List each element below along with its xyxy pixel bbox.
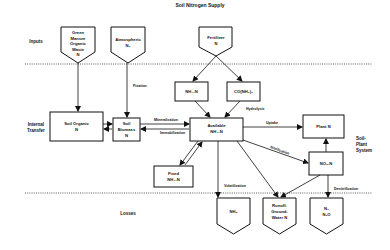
urea-text: CO(NH₂)₂: [234, 89, 253, 94]
losses-label: Losses: [120, 211, 136, 216]
soil-plant-label-2: Plant: [356, 142, 368, 147]
fertilizer-text-2: N: [214, 41, 217, 46]
no3-text: NO₃-N: [320, 161, 333, 166]
nh3-text: NH₃: [230, 209, 238, 214]
available-text-2: NH₄-N: [210, 129, 222, 134]
fixed-text-1: Fixed: [168, 171, 179, 176]
fertilizer-text-1: Fertilizer: [207, 35, 225, 40]
mineralization-label: Mineralization: [154, 118, 178, 122]
inputs-label: Inputs: [29, 39, 43, 44]
fixation-label: Fixation: [133, 84, 147, 88]
denitrification-label: Denitrification: [334, 187, 358, 191]
green-manure-text-4: Waste: [72, 47, 85, 52]
edge-fert-to-urea: [216, 56, 242, 81]
nitrogen-cycle-diagram: Soil Nitrogen Supply Inputs Internal Tra…: [0, 0, 390, 250]
soil-organic-text-2: N: [75, 127, 78, 132]
atmospheric-text-2: N₂: [126, 43, 131, 48]
plant-text: Plant N: [316, 124, 330, 129]
green-manure-text-3: Organic: [70, 41, 86, 46]
uptake-label: Uptake: [266, 121, 278, 125]
immobilization-label: Immobilization: [160, 131, 185, 135]
soil-biomass-text-3: N: [125, 133, 128, 138]
runoff-text-3: Water N: [272, 215, 288, 220]
runoff-text-2: Ground-: [271, 209, 288, 214]
available-text-1: Available: [207, 123, 226, 128]
volatilization-label: Volatilization: [224, 184, 246, 188]
nh4-text: NH₄-N: [185, 89, 197, 94]
internal-transfer-label-1: Internal: [28, 122, 44, 127]
edge-fert-to-nh4: [193, 56, 216, 81]
soil-plant-label-3: System: [356, 148, 372, 153]
edge-nitrification: [243, 140, 308, 163]
edge-available-to-fixed: [180, 141, 198, 165]
green-manure-text-2: Manure: [71, 36, 87, 41]
atmospheric-text-1: Atmospheric: [115, 37, 141, 42]
n2-text-1: N₂: [324, 206, 329, 211]
edge-hydrolysis: [225, 101, 240, 117]
edge-nh4-to-available: [195, 101, 210, 117]
internal-transfer-label-2: Transfer: [27, 128, 45, 133]
n2-text-2: N₂O: [322, 212, 331, 217]
edge-no3-to-runoff: [281, 175, 320, 197]
runoff-text-1: Runoff-: [272, 203, 287, 208]
hydrolysis-label: Hydrolysis: [246, 107, 264, 111]
soil-biomass-text-1: Soil: [123, 121, 131, 126]
soil-biomass-text-2: Biomass: [118, 127, 136, 132]
edge-fixed-to-available: [185, 142, 202, 165]
green-manure-text-1: Green: [72, 30, 85, 35]
soil-plant-label-1: Soil-: [356, 136, 366, 141]
diagram-title: Soil Nitrogen Supply: [175, 2, 224, 8]
nh3-node: [217, 198, 250, 234]
fixed-text-2: NH₄-N: [167, 177, 179, 182]
green-manure-text-5: N: [76, 52, 79, 57]
soil-organic-text-1: Soil Organic: [64, 121, 89, 126]
